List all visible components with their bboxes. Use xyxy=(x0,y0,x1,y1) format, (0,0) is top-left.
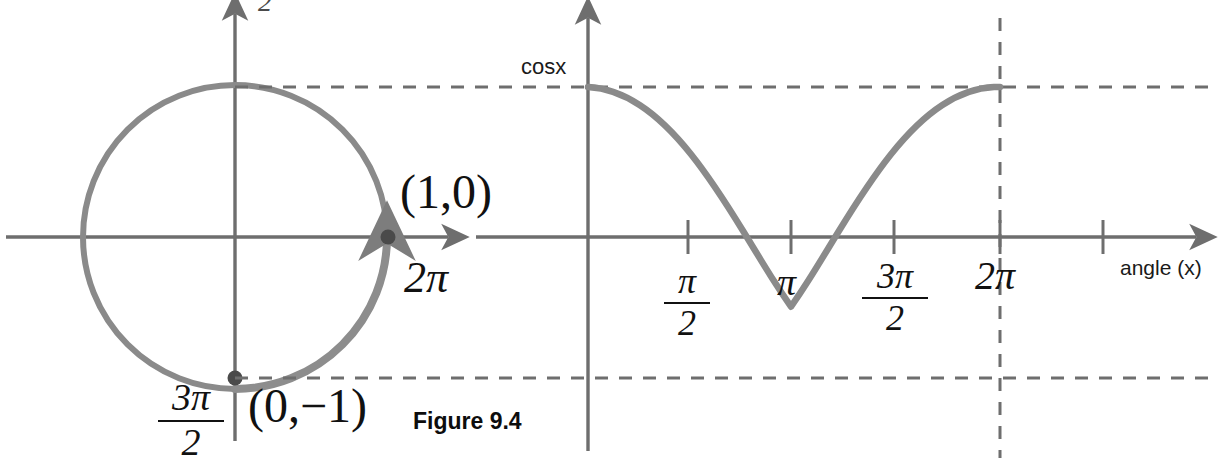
xtick-label-two-pi: 2π xyxy=(975,256,1015,296)
label-angle-3pi-over-2-circle: 3π 2 xyxy=(158,378,224,462)
fraction-numerator: 3π xyxy=(862,258,928,295)
label-angle-2pi-circle: 2π xyxy=(404,256,448,300)
clipped-top-glyph: 2 xyxy=(258,0,272,16)
xtick-label-three-half-pi: 3π 2 xyxy=(862,258,928,338)
xtick-label-pi: π xyxy=(777,263,796,301)
unit-circle-point-1-0 xyxy=(381,230,396,245)
label-point-1-0: (1,0) xyxy=(400,168,492,216)
fraction-denominator: 2 xyxy=(664,305,710,342)
figure-9-4: 2 (1,0) 2π 3π 2 (0,−1) Figure 9.4 cosx π… xyxy=(0,0,1226,463)
fraction-numerator: π xyxy=(664,263,710,300)
figure-caption: Figure 9.4 xyxy=(413,410,522,433)
cos-graph-panel xyxy=(476,18,1196,451)
fraction-denominator: 2 xyxy=(158,423,224,463)
cos-graph-x-axis-label: angle (x) xyxy=(1120,257,1202,278)
label-point-0-neg1: (0,−1) xyxy=(248,382,367,430)
xtick-label-half-pi: π 2 xyxy=(664,263,710,343)
cos-graph-y-axis-label: cosx xyxy=(521,56,566,78)
fraction-numerator: 3π xyxy=(158,378,224,418)
fraction-denominator: 2 xyxy=(862,300,928,337)
unit-circle-sweep-arc xyxy=(235,237,387,389)
